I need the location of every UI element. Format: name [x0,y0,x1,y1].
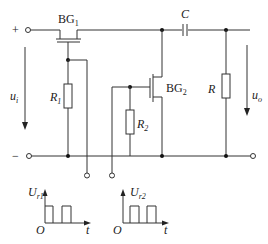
circuit-diagram: + − BG1 C R1 BG2 R2 [0,0,268,244]
node-bottom-bg2 [160,154,164,158]
gate2-input-terminal [110,173,115,178]
output-minus-terminal [251,154,256,159]
uo-label: uo [252,88,262,104]
minus-terminal-label: − [12,149,19,163]
waveform2-t-label: t [164,223,168,237]
ui-label: ui [10,89,18,105]
gate1-input-terminal [85,173,90,178]
uo-arrow [244,45,250,116]
waveform-ur1 [43,189,92,226]
resistor-r [222,74,230,98]
resistor-r1 [64,84,72,108]
waveform1-t-label: t [86,223,90,237]
capacitor-label: C [181,7,190,21]
input-plus-terminal [26,28,31,33]
plus-terminal-label: + [12,23,19,37]
ur1-label: Ur1 [28,185,44,201]
node-bottom-r [224,154,228,158]
bg2-label: BG2 [166,81,187,97]
resistor-r2 [126,110,134,134]
waveform1-origin: O [36,223,45,237]
ui-arrow [22,47,28,130]
node-bottom-r1 [66,154,70,158]
ur2-label: Ur2 [130,185,146,201]
bg1-label: BG1 [58,12,79,28]
r2-label: R2 [136,117,148,133]
transistor-bg2 [150,30,162,156]
waveform2-origin: O [113,223,122,237]
r-label: R [207,82,216,96]
input-minus-terminal [27,154,32,159]
transistor-bg1 [56,30,81,60]
r1-label: R1 [49,90,61,106]
